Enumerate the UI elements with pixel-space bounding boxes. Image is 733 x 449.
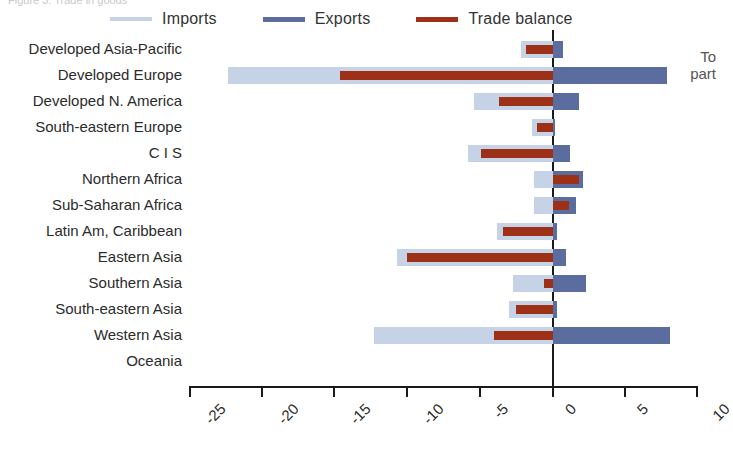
category-label: Latin Am, Caribbean (0, 223, 182, 239)
category-label: Developed Europe (0, 67, 182, 83)
chart-row (189, 193, 698, 219)
axis-tick-label: 10 (709, 400, 733, 424)
chart-row (189, 245, 698, 271)
legend-swatch-trade-balance-icon (416, 17, 458, 22)
bar-exports (553, 67, 668, 84)
bar-trade-balance (526, 45, 552, 54)
bar-exports (553, 93, 579, 110)
chart-row (189, 297, 698, 323)
bar-exports (553, 327, 671, 344)
bar-exports (553, 301, 557, 318)
category-label: Oceania (0, 353, 182, 369)
legend-label-exports: Exports (315, 10, 371, 28)
category-label: Eastern Asia (0, 249, 182, 265)
axis-tick (479, 386, 481, 397)
axis-tick-label: -20 (274, 400, 301, 427)
bar-trade-balance (503, 227, 552, 236)
cropped-side-annotation-line1: To (682, 48, 716, 65)
bar-trade-balance (499, 97, 553, 106)
bar-exports (553, 119, 556, 136)
legend-item-exports: Exports (263, 10, 371, 28)
axis-tick-label: 0 (561, 400, 579, 418)
bar-exports (553, 145, 570, 162)
axis-tick (552, 386, 554, 397)
bar-exports (553, 41, 563, 58)
chart-row (189, 37, 698, 63)
axis-tick-label: 5 (634, 400, 652, 418)
bar-trade-balance (340, 71, 552, 80)
bar-imports (534, 197, 553, 214)
chart-row (189, 323, 698, 349)
bar-trade-balance (407, 253, 552, 262)
category-label: Developed Asia-Pacific (0, 41, 182, 57)
bar-exports (553, 249, 566, 266)
category-label: Northern Africa (0, 171, 182, 187)
axis-tick (696, 386, 698, 397)
cropped-side-annotation-line2: part (682, 65, 716, 82)
axis-tick (333, 386, 335, 397)
category-label: Southern Asia (0, 275, 182, 291)
bar-trade-balance (537, 123, 553, 132)
axis-tick (189, 386, 191, 397)
axis-tick (261, 386, 263, 397)
legend-swatch-imports-icon (110, 17, 152, 21)
legend-label-imports: Imports (162, 10, 217, 28)
chart-row (189, 115, 698, 141)
bar-trade-balance (481, 149, 552, 158)
plot-area (189, 34, 698, 386)
chart-legend: Imports Exports Trade balance (0, 8, 700, 30)
category-label: C I S (0, 145, 182, 161)
legend-item-trade-balance: Trade balance (416, 10, 572, 28)
chart-row (189, 167, 698, 193)
bar-trade-balance (516, 305, 552, 314)
cropped-figure-title: Figure 3. Trade in goods (0, 0, 716, 6)
bar-trade-balance (544, 279, 553, 288)
axis-tick-label: -25 (201, 400, 228, 427)
value-axis: -25-20-15-10-50510 (189, 386, 698, 388)
chart-row (189, 219, 698, 245)
axis-tick-label: -5 (490, 400, 511, 421)
bar-exports (553, 223, 557, 240)
category-label: Sub-Saharan Africa (0, 197, 182, 213)
bar-trade-balance (494, 331, 552, 340)
category-axis-labels: Developed Asia-PacificDeveloped EuropeDe… (0, 34, 186, 386)
chart-row (189, 349, 698, 375)
chart-row (189, 89, 698, 115)
bar-trade-balance (553, 175, 579, 184)
axis-tick-label: -10 (419, 400, 446, 427)
cropped-side-annotation: To part (682, 48, 716, 98)
legend-item-imports: Imports (110, 10, 217, 28)
legend-label-trade-balance: Trade balance (468, 10, 572, 28)
axis-tick (406, 386, 408, 397)
bar-imports (534, 171, 553, 188)
category-label: Developed N. America (0, 93, 182, 109)
chart-row (189, 271, 698, 297)
legend-swatch-exports-icon (263, 17, 305, 22)
category-label: South-eastern Europe (0, 119, 182, 135)
chart-row (189, 141, 698, 167)
chart-row (189, 63, 698, 89)
category-label: Western Asia (0, 327, 182, 343)
axis-tick-label: -15 (347, 400, 374, 427)
category-label: South-eastern Asia (0, 301, 182, 317)
bar-exports (553, 275, 586, 292)
bar-trade-balance (553, 201, 569, 210)
axis-tick (624, 386, 626, 397)
horizontal-bar-chart: Developed Asia-PacificDeveloped EuropeDe… (0, 34, 716, 394)
